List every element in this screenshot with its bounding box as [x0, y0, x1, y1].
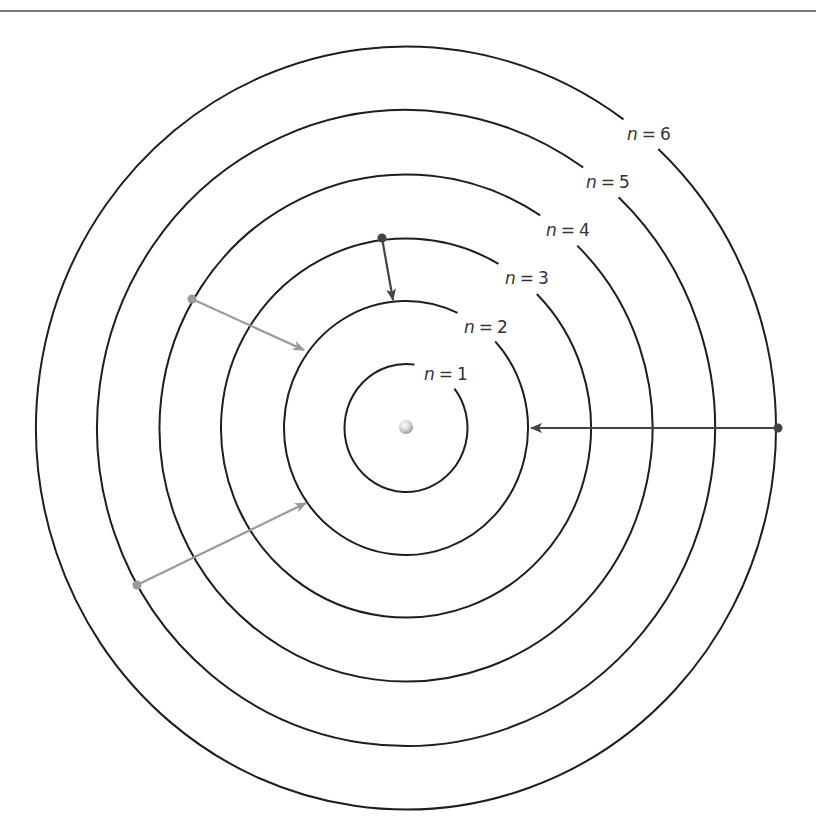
electron-dot — [188, 295, 197, 304]
orbit-label-variable: n — [586, 172, 597, 192]
orbit-label-n5: n=5 — [586, 174, 630, 191]
orbit-label-n1: n=1 — [424, 366, 468, 383]
transition-n3-to-n2 — [378, 234, 394, 301]
transitions-layer — [133, 234, 783, 590]
orbit-label-number: 5 — [619, 172, 630, 192]
orbit-label-variable: n — [424, 364, 435, 384]
transition-arrow — [382, 238, 393, 300]
nucleus-icon — [399, 420, 413, 434]
transition-n4-to-n2 — [188, 295, 305, 351]
orbit-label-variable: n — [505, 268, 516, 288]
orbit-label-equals: = — [435, 364, 457, 384]
transition-arrow — [137, 503, 306, 585]
orbit-label-variable: n — [546, 220, 557, 240]
orbit-label-n2: n=2 — [464, 319, 508, 336]
orbit-label-n4: n=4 — [546, 222, 590, 239]
orbit-label-n6: n=6 — [627, 126, 671, 143]
orbit-label-number: 1 — [457, 364, 468, 384]
transition-arrow — [192, 299, 304, 350]
orbit-label-number: 2 — [497, 317, 508, 337]
orbit-label-equals: = — [516, 268, 538, 288]
electron-dot — [378, 234, 387, 243]
orbit-label-number: 6 — [660, 124, 671, 144]
orbit-label-number: 3 — [538, 268, 549, 288]
orbit-label-equals: = — [597, 172, 619, 192]
transition-n5-to-n2 — [133, 503, 307, 590]
transition-n6-to-n2 — [531, 424, 783, 433]
orbit-label-number: 4 — [579, 220, 590, 240]
electron-dot — [774, 424, 783, 433]
orbit-label-equals: = — [557, 220, 579, 240]
orbit-label-equals: = — [638, 124, 660, 144]
orbit-label-equals: = — [475, 317, 497, 337]
electron-dot — [133, 581, 142, 590]
orbit-label-n3: n=3 — [505, 270, 549, 287]
orbit-label-variable: n — [627, 124, 638, 144]
nucleus-layer — [399, 420, 413, 434]
bohr-model-diagram — [0, 0, 816, 837]
orbit-label-variable: n — [464, 317, 475, 337]
